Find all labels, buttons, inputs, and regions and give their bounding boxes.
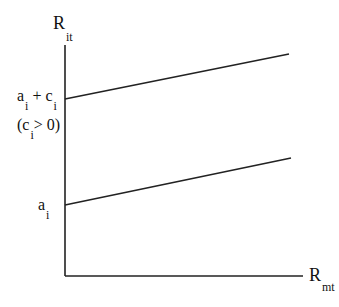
plus-symbol: + (32, 87, 41, 104)
a-symbol: a (17, 87, 24, 104)
condition-subscript: i (30, 128, 33, 142)
x-axis-label-main: R (309, 265, 321, 285)
condition-open: (c (17, 116, 29, 133)
upper-intercept-label: ai + ci (17, 88, 57, 104)
condition-label: (ci> 0) (17, 117, 60, 133)
x-axis-label-subscript: mt (322, 280, 335, 294)
a-symbol: a (38, 196, 45, 213)
c-subscript: i (54, 99, 57, 113)
a-subscript: i (46, 208, 49, 222)
y-axis-label-subscript: it (66, 30, 73, 44)
c-symbol: c (45, 87, 52, 104)
a-subscript: i (25, 99, 28, 113)
y-axis-label-main: R (53, 13, 65, 33)
x-axis-label: Rmt (309, 266, 335, 284)
diagram-canvas (0, 0, 339, 307)
y-axis-label: Rit (53, 14, 73, 32)
condition-rest: > 0) (34, 116, 60, 133)
lower-intercept-label: ai (38, 197, 49, 213)
upper-regression-line (65, 54, 289, 99)
lower-regression-line (65, 158, 291, 205)
